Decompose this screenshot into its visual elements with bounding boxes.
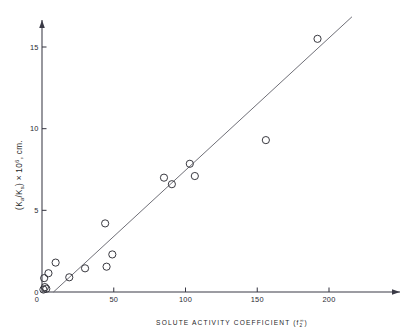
x-axis-ticks: 050100150200 [35, 288, 336, 305]
x-tick-label: 200 [323, 295, 336, 304]
x-tick-label: 150 [251, 295, 264, 304]
data-point-marker [314, 35, 321, 42]
svg-text:(Ka/Ks) × 106, cm.: (Ka/Ks) × 106, cm. [14, 140, 26, 210]
x-axis-arrow-icon [392, 289, 400, 295]
data-point-marker [191, 172, 198, 179]
data-point-marker [102, 220, 109, 227]
data-point-marker [45, 270, 52, 277]
data-point-group [40, 35, 321, 293]
data-point-marker [160, 174, 167, 181]
data-point-marker [262, 137, 269, 144]
regression-fit-line [53, 17, 351, 292]
data-point-marker [109, 251, 116, 258]
scatter-plot-canvas: 050100150200 051015 SOLUTE ACTIVITY COEF… [0, 0, 415, 335]
y-tick-label: 10 [30, 124, 39, 133]
y-tick-label: 5 [34, 206, 38, 215]
x-tick-label: 50 [109, 295, 118, 304]
svg-text:SOLUTE ACTIVITY COEFFICIENT: SOLUTE ACTIVITY COEFFICIENT (f2∞) [156, 318, 308, 328]
axes-group [39, 20, 400, 295]
y-axis-arrow-icon [39, 20, 45, 28]
x-axis-title: SOLUTE ACTIVITY COEFFICIENT (f2∞) [156, 318, 308, 328]
x-tick-label: 100 [179, 295, 192, 304]
y-axis-title: (Ka/Ks) × 106, cm. [14, 140, 26, 210]
y-tick-label: 0 [34, 288, 38, 297]
y-tick-label: 15 [30, 43, 39, 52]
chart-figure: 050100150200 051015 SOLUTE ACTIVITY COEF… [0, 0, 415, 335]
data-point-marker [52, 259, 59, 266]
data-point-marker [168, 181, 175, 188]
data-point-marker [81, 265, 88, 272]
y-axis-ticks: 051015 [30, 43, 47, 297]
data-point-marker [103, 263, 110, 270]
